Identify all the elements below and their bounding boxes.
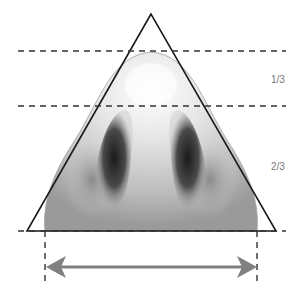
nose-illustration [45,52,258,231]
tip-highlight [125,63,177,107]
width-arrow [46,256,257,278]
nasal-proportion-diagram: 1/3 2/3 [0,0,296,297]
lower-two-thirds-label: 2/3 [271,161,285,172]
upper-third-label: 1/3 [271,74,285,85]
